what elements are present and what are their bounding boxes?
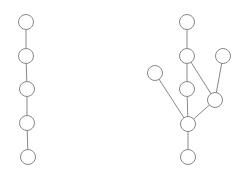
node-circle: [180, 49, 195, 64]
node-circle: [180, 15, 195, 30]
node-circle: [20, 82, 35, 97]
path-graph: [19, 15, 36, 165]
edge: [155, 73, 188, 124]
node-circle: [21, 150, 36, 165]
node-circle: [20, 116, 35, 131]
node-circle: [148, 66, 163, 81]
node-circle: [19, 49, 34, 64]
node-circle: [181, 150, 196, 165]
node-circle: [208, 93, 223, 108]
node-circle: [181, 117, 196, 132]
tree-graph: [148, 15, 231, 165]
node-circle: [19, 15, 34, 30]
node-circle: [216, 49, 231, 64]
node-circle: [180, 82, 195, 97]
graph-diagram: [0, 0, 245, 180]
